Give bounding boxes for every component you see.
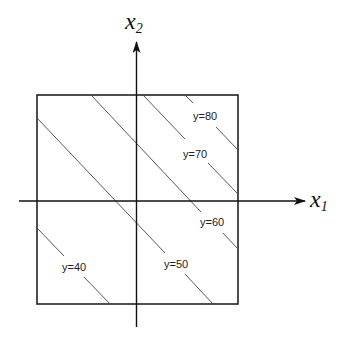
x2-axis-label: x2 [124,8,143,36]
x1-axis-label: x1 [309,186,328,214]
contour-diagram: x1 x2 y=80 y=70 y=60 y=50 y=40 [0,0,347,341]
contour-label-y50: y=50 [164,258,188,270]
contour-y40-b [84,277,110,304]
contour-label-y80: y=80 [193,110,217,122]
contour-y70-b [208,163,238,194]
contour-y50-a [37,118,165,253]
contour-y80-b [216,127,238,150]
contour-y40-a [37,228,64,256]
contour-y70-a [143,95,185,139]
contour-y60-b [223,233,238,249]
contour-y80-a [185,95,193,103]
contour-y50-b [185,274,213,304]
contour-label-y60: y=60 [200,216,224,228]
contour-label-y70: y=70 [183,148,207,160]
contour-label-y40: y=40 [62,261,86,273]
